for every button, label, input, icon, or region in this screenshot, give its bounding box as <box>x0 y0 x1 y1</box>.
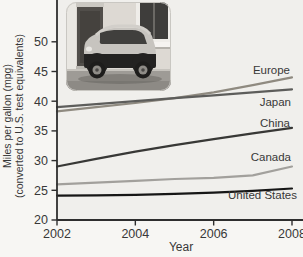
series-label-china: China <box>260 117 291 129</box>
x-tick-label: 2002 <box>43 227 71 241</box>
x-axis-title: Year <box>169 240 193 254</box>
y-tick-label: 30 <box>34 154 48 168</box>
y-tick-label: 20 <box>34 213 48 227</box>
car-windows <box>100 30 147 44</box>
series-label-united-states: United States <box>228 189 297 201</box>
y-axis-ticks: 20253035404550 <box>34 35 57 227</box>
y-axis-title-line1: Miles per gallon (mpg) <box>1 64 13 168</box>
car-photo-inset <box>66 2 171 91</box>
y-tick-label: 50 <box>34 35 48 49</box>
fuel-economy-chart: 20253035404550 2002200420062008 EuropeJa… <box>0 0 303 257</box>
series-label-europe: Europe <box>253 64 290 76</box>
fuel-economy-figure: 20253035404550 2002200420062008 EuropeJa… <box>0 0 303 257</box>
x-tick-label: 2004 <box>121 227 149 241</box>
x-tick-label: 2006 <box>200 227 228 241</box>
series-label-canada: Canada <box>251 151 292 163</box>
y-axis-title-line2: (converted to U.S. test equivalents) <box>13 34 25 198</box>
x-tick-label: 2008 <box>278 227 303 241</box>
car-front-wheel <box>89 62 106 79</box>
y-tick-label: 45 <box>34 65 48 79</box>
y-tick-label: 35 <box>34 124 48 138</box>
y-tick-label: 40 <box>34 95 48 109</box>
series-label-japan: Japan <box>260 96 291 108</box>
y-tick-label: 25 <box>34 184 48 198</box>
x-axis-ticks: 2002200420062008 <box>43 220 303 241</box>
car-headlight <box>86 47 92 52</box>
car-rear-wheel <box>135 62 152 79</box>
